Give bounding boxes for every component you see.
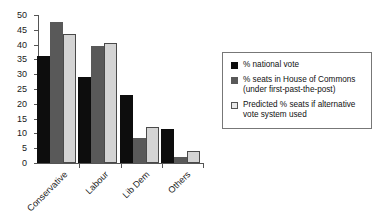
y-axis-tick-label: 45 — [17, 25, 27, 34]
bar — [174, 157, 187, 163]
y-axis-tick-label: 10 — [17, 129, 27, 138]
y-axis-tick-label: 5 — [22, 144, 27, 153]
bar-group — [78, 15, 117, 163]
y-axis-tick-label: 50 — [17, 11, 27, 20]
bar — [104, 43, 117, 163]
x-axis-tick — [79, 163, 80, 168]
y-axis-tick-label: 35 — [17, 55, 27, 64]
legend-item-label: Predicted % seats if alternative vote sy… — [243, 100, 364, 121]
legend-item-label: % seats in House of Commons (under first… — [243, 75, 364, 96]
x-axis-category-label: Conservative — [25, 170, 69, 213]
bar — [146, 127, 159, 163]
bar — [187, 151, 200, 163]
x-axis-category-label: Lib Dem — [121, 170, 151, 200]
light-gray-swatch — [231, 102, 238, 109]
dark-gray-swatch — [231, 77, 238, 84]
plot-area: 05101520253035404550 ConservativeLabourL… — [38, 15, 203, 163]
x-axis-category-label: Others — [167, 170, 192, 195]
y-axis-tick — [34, 163, 38, 164]
x-axis-tick — [162, 163, 163, 168]
y-axis-tick-label: 0 — [22, 159, 27, 168]
bar-group — [161, 15, 200, 163]
bar — [63, 34, 76, 163]
bar — [161, 129, 174, 163]
legend-item[interactable]: % national vote — [231, 60, 364, 71]
bar — [37, 56, 50, 163]
legend-item[interactable]: Predicted % seats if alternative vote sy… — [231, 100, 364, 121]
bar — [120, 95, 133, 163]
x-axis-tick — [121, 163, 122, 168]
bar — [133, 138, 146, 163]
bar-group — [37, 15, 76, 163]
bar — [78, 77, 91, 163]
bar — [50, 22, 63, 163]
legend-item[interactable]: % seats in House of Commons (under first… — [231, 75, 364, 96]
black-swatch — [231, 62, 238, 69]
x-axis-tick — [203, 163, 204, 168]
y-axis-tick-label: 15 — [17, 114, 27, 123]
y-axis-tick-label: 20 — [17, 99, 27, 108]
y-axis-tick-label: 25 — [17, 85, 27, 94]
y-axis-tick-label: 40 — [17, 40, 27, 49]
bar-chart-figure: 05101520253035404550 ConservativeLabourL… — [0, 0, 381, 213]
bar-group — [120, 15, 159, 163]
chart-legend: % national vote% seats in House of Commo… — [222, 52, 372, 129]
y-axis-tick-label: 30 — [17, 70, 27, 79]
legend-item-label: % national vote — [243, 60, 299, 71]
bar — [91, 46, 104, 163]
x-axis-category-label: Labour — [84, 170, 110, 196]
